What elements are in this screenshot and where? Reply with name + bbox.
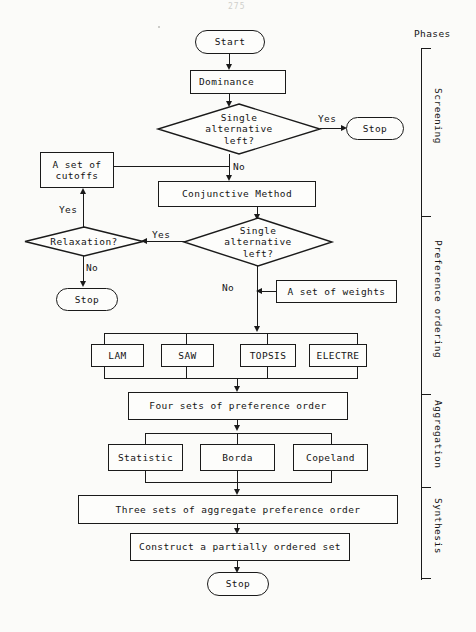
phases-header: Phases	[414, 28, 451, 39]
decision2-label: Single alternative left?	[224, 225, 291, 259]
phases-bracket-tick-aggregation-end	[421, 487, 431, 488]
node-decision-single-alternative-1: Single alternative left?	[158, 104, 320, 154]
node-statistic: Statistic	[108, 444, 183, 471]
node-saw: SAW	[161, 344, 214, 367]
phase-label-screening: Screening	[433, 88, 444, 144]
phase-label-aggregation: Aggregation	[433, 400, 444, 468]
paper-speck	[158, 26, 160, 28]
node-construct-partially-ordered-set: Construct a partially ordered set	[130, 533, 350, 561]
edge-relaxation-no	[83, 256, 84, 282]
edge-cutoffs-to-main	[114, 166, 230, 167]
flowchart-page: 275 Start Dominance Single alternative l…	[0, 0, 476, 632]
node-stop-screening: Stop	[346, 117, 404, 140]
node-a-set-of-weights: A set of weights	[276, 280, 397, 303]
arrowhead-decision2-no-to-methods	[254, 326, 260, 332]
node-a-set-of-cutoffs: A set of cutoffs	[40, 152, 114, 188]
edge-decision1-no	[229, 154, 230, 176]
relaxation-label: Relaxation?	[50, 236, 117, 247]
phases-bracket-tick-top	[421, 48, 431, 49]
edge-decision2-yes	[144, 241, 185, 242]
arrowhead-weights-to-main	[256, 288, 262, 294]
node-start: Start	[195, 30, 265, 54]
bus-rise-copeland	[331, 471, 332, 483]
bus-top-methods	[104, 333, 358, 334]
node-borda: Borda	[200, 444, 275, 471]
bus-bottom-methods	[104, 378, 358, 379]
node-stop-preference: Stop	[56, 288, 118, 311]
node-lam: LAM	[91, 344, 144, 367]
edge-label-relaxation-yes: Yes	[59, 204, 77, 215]
arrowhead-four-sets-down	[234, 425, 240, 431]
edge-label-relaxation-no: No	[86, 262, 98, 273]
node-dominance: Dominance	[190, 70, 286, 94]
node-decision-single-alternative-2: Single alternative left?	[184, 218, 332, 266]
node-relaxation-decision: Relaxation?	[25, 227, 143, 256]
edge-label-decision1-yes: Yes	[318, 113, 336, 124]
edge-relaxation-yes	[83, 194, 84, 227]
edge-label-decision1-no: No	[233, 161, 245, 172]
edge-label-decision2-no: No	[222, 282, 234, 293]
edge-label-decision2-yes: Yes	[152, 229, 170, 240]
phases-bracket-tick-screening-end	[421, 216, 431, 217]
phase-label-preference-ordering: Preference ordering	[433, 240, 444, 358]
page-number: 275	[228, 2, 245, 11]
node-three-sets-of-aggregate-preference-order: Three sets of aggregate preference order	[78, 495, 398, 524]
arrowhead-relaxation-no	[80, 281, 86, 287]
phase-label-synthesis: Synthesis	[433, 498, 444, 554]
phases-bracket-tick-preference-end	[421, 394, 431, 395]
node-electre: ELECTRE	[309, 344, 367, 367]
phases-bracket-tick-bottom	[421, 578, 431, 579]
node-stop-end: Stop	[207, 572, 269, 596]
node-topsis: TOPSIS	[240, 344, 296, 367]
node-conjunctive-method: Conjunctive Method	[158, 181, 316, 207]
arrowhead-relaxation-yes	[80, 188, 86, 194]
phases-bracket-spine	[421, 48, 422, 580]
edge-decision2-no	[257, 266, 258, 328]
decision1-label: Single alternative left?	[205, 112, 272, 146]
node-copeland: Copeland	[293, 444, 368, 471]
edge-decision1-yes	[320, 128, 343, 129]
node-four-sets-of-preference-order: Four sets of preference order	[128, 392, 348, 420]
